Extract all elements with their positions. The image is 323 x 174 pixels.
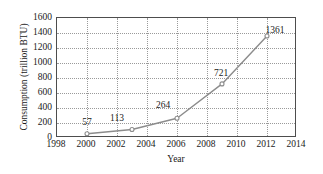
point-label-2009: 721: [204, 68, 238, 78]
data-point-2003: [130, 128, 134, 132]
y-tick-label-200: 200: [22, 117, 52, 127]
data-point-2009: [220, 82, 224, 86]
x-tick-label-2014: 2014: [276, 139, 316, 150]
y-tick-label-600: 600: [22, 87, 52, 97]
point-label-2006: 264: [146, 100, 180, 110]
y-tick-label-400: 400: [22, 102, 52, 112]
point-label-2012: 1361: [258, 25, 292, 35]
y-tick-label-1400: 1400: [22, 27, 52, 37]
y-tick-label-1200: 1200: [22, 42, 52, 52]
point-label-2003: 113: [100, 113, 134, 123]
point-label-2000: 57: [70, 117, 104, 127]
line-chart: Consumption (trillion BTU) 1600 1400 120…: [0, 0, 323, 174]
x-axis-title: Year: [56, 154, 296, 164]
y-tick-label-800: 800: [22, 72, 52, 82]
y-tick-label-1000: 1000: [22, 57, 52, 67]
y-tick-label-1600: 1600: [22, 12, 52, 22]
data-point-2006: [175, 116, 179, 120]
data-point-2000: [85, 132, 89, 136]
